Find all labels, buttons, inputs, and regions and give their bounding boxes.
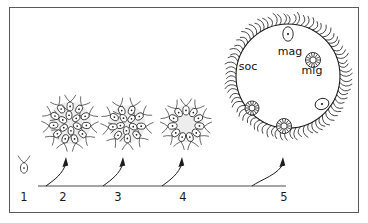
sphere-cilium [225,80,237,84]
sphere-cilium [304,16,309,27]
cell-nucleus [86,125,88,127]
sphere-cilium [292,14,296,24]
cell-flagellum [52,137,54,146]
sphere-cilium [337,94,348,99]
cell-flagellum [181,141,184,150]
cell-flagellum [89,114,98,116]
cell-nucleus [53,124,55,126]
inner-cell-microgamete [277,119,292,134]
cell-nucleus [136,134,138,136]
sphere-cilium [228,56,238,61]
microgamete-core [249,105,255,111]
cell-flagellum [204,122,212,127]
cell-flagellum [86,137,95,138]
cell-flagellum [107,107,111,115]
cell-flagellum [176,100,177,109]
stage-number-1: 1 [20,190,27,204]
cell-flagellum [45,136,54,137]
cell-flagellum [70,95,76,102]
cell-flagellum [89,106,93,114]
label-mig: mig [302,64,323,77]
sphere-cilium [340,78,352,82]
cell-nucleus [63,127,65,129]
cell-nucleus [131,118,133,120]
cell-nucleus [138,116,140,118]
cell-flagellum [120,98,123,107]
cell-flagellum [186,99,192,106]
arrow-4-5 [252,157,285,186]
inner-cell-microgamete [245,101,259,115]
cell-flagellum [146,127,152,134]
sphere-cilium [226,71,237,74]
cell-nucleus [173,118,175,120]
arrow-head [279,157,285,167]
inner-cell-macrogamete [283,27,293,41]
arrow-3-4 [162,157,184,186]
stage-arrows [46,157,285,186]
cell-flagellum [180,99,186,106]
sphere-cilium [283,14,286,25]
cell-nucleus [185,110,187,112]
cell-nucleus [68,114,70,116]
cell-flagellum [72,143,75,151]
cell-flagellum [115,139,116,148]
cell-nucleus [121,110,123,112]
arrow-shaft [252,163,283,186]
sphere-cilium [251,118,257,126]
cell-nucleus [178,112,180,114]
sphere-cilium [340,73,353,76]
cell-nucleus [112,126,114,128]
cell-nucleus [172,125,174,127]
cell-flagellum [127,143,133,150]
cell-nucleus [123,117,125,119]
sphere-cilium [225,85,237,89]
cell-nucleus [117,134,119,136]
stage-number-3: 3 [114,190,121,204]
sphere-cilium [338,60,347,64]
cell-flagellum [43,126,49,133]
cell-flagellum [139,138,140,147]
cell-flagellum [103,128,109,135]
label-mag: mag [278,45,302,58]
spherical-colony [225,12,353,140]
cell-nucleus [132,126,134,128]
cell-flagellum [165,108,169,116]
sphere-cilium [226,76,236,79]
cell-flagellum [130,98,133,107]
arrow-head [119,157,125,167]
cell-nucleus [198,118,200,120]
cell-nucleus [189,136,191,138]
cell-flagellum [133,101,141,106]
cell-flagellum [42,114,51,116]
cell-flagellum [91,126,97,133]
stage-1-organism [18,156,30,174]
sphere-cilium [339,86,351,91]
stage-number-2: 2 [59,190,66,204]
cell-nucleus [69,106,71,108]
sphere-cilium [230,48,241,53]
cell-flagellum [18,156,24,163]
cell-nucleus [127,138,129,140]
cell-flagellum [139,138,148,140]
cell-flagellum [200,136,209,137]
cell-flagellum [41,121,49,126]
cell-flagellum [143,114,152,115]
cell-nucleus [126,130,128,132]
cell-nucleus [78,108,80,110]
cell-flagellum [171,136,173,145]
microgamete-core [281,123,287,129]
cell-flagellum [204,127,210,134]
cell-flagellum [106,139,115,141]
cell-nucleus [23,167,25,169]
sphere-cilium [234,45,243,50]
cell-flagellum [167,106,176,109]
cell-flagellum [163,136,172,137]
cell-flagellum [196,106,205,109]
sphere-cilium [298,126,302,136]
cell-nucleus [199,125,201,127]
cell-flagellum [143,106,146,115]
cell-nucleus [76,125,78,127]
cell-nucleus [74,138,76,140]
cell-flagellum [146,122,154,126]
cell-flagellum [200,136,202,145]
